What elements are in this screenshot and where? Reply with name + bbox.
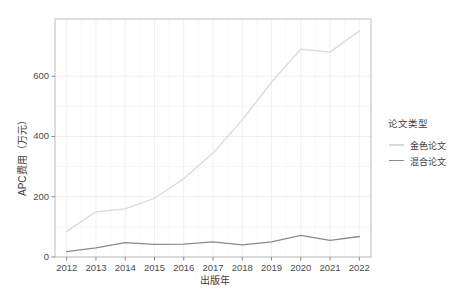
y-axis-title: APC费用（万元） <box>14 115 29 196</box>
legend-title: 论文类型 <box>388 116 462 130</box>
legend-entry[interactable]: 金色论文 <box>388 137 462 153</box>
x-tick-label: 2022 <box>342 262 376 273</box>
legend-entries: 金色论文混合论文 <box>388 137 462 169</box>
legend: 论文类型 金色论文混合论文 <box>388 116 462 169</box>
legend-entry-label: 混合论文 <box>410 155 446 168</box>
legend-line-swatch-icon <box>388 138 405 152</box>
legend-entry-label: 金色论文 <box>410 139 446 152</box>
x-axis-title: 出版年 <box>150 272 280 287</box>
legend-entry[interactable]: 混合论文 <box>388 153 462 169</box>
legend-line-swatch-icon <box>388 154 405 168</box>
chart-container: 0200400600 20122013201420152016201720182… <box>0 0 465 289</box>
